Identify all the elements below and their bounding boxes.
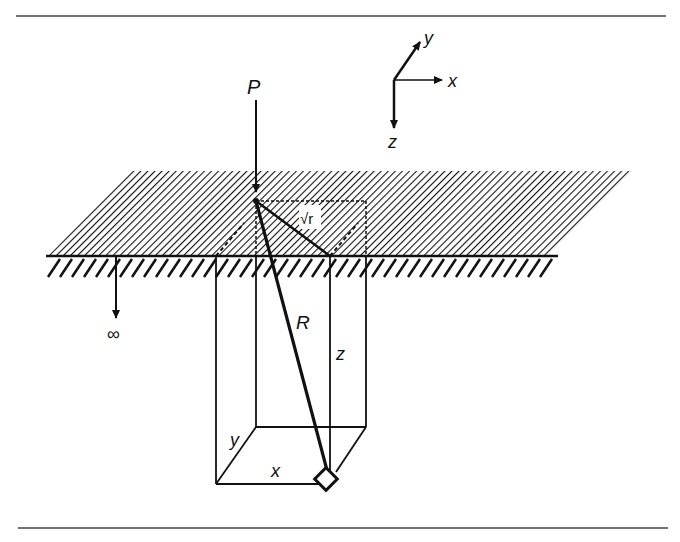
axis-label-x: x bbox=[447, 71, 458, 91]
axes-triad: y x z bbox=[387, 28, 458, 152]
stress-element bbox=[315, 468, 338, 491]
infinity-label: ∞ bbox=[107, 324, 120, 344]
box-label-x: x bbox=[270, 461, 281, 481]
boussinesq-diagram: y x z bbox=[0, 0, 680, 542]
surface-radius-label: √r bbox=[300, 210, 313, 227]
ground-hatch bbox=[48, 259, 552, 277]
depth-label-z: z bbox=[335, 344, 345, 364]
axis-label-z: z bbox=[387, 132, 397, 152]
box-label-y: y bbox=[228, 430, 240, 450]
distance-label-R: R bbox=[296, 312, 310, 333]
load-label: P bbox=[247, 76, 261, 98]
y-axis-arrow bbox=[394, 42, 420, 80]
axis-label-y: y bbox=[422, 28, 434, 48]
